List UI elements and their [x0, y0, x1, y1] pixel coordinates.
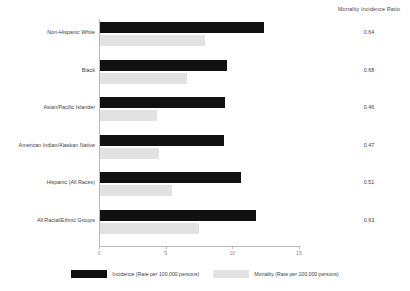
- bar-mortality: [100, 148, 159, 159]
- ratio-value: 0.47: [330, 142, 408, 148]
- bar-mortality: [100, 73, 187, 84]
- mortality-incidence-chart: Mortality Incidence Ratio 051015 Non-His…: [0, 0, 410, 291]
- ratio-value: 0.68: [330, 67, 408, 73]
- legend-swatch-mortality: [213, 270, 249, 278]
- ratio-value: 0.64: [330, 29, 408, 35]
- bar-mortality: [100, 110, 157, 121]
- bar-incidence: [100, 22, 264, 33]
- category-label: Black: [0, 67, 95, 73]
- category-label: Non-Hispanic White: [0, 29, 95, 35]
- ratio-column-header: Mortality Incidence Ratio: [330, 6, 408, 12]
- x-tick-label: 5: [156, 250, 176, 256]
- category-label: Hispanic (All Races): [0, 179, 95, 185]
- chart-legend: Incidence (Rate per 100,000 persons) Mor…: [0, 270, 410, 278]
- legend-label-mortality: Mortality (Rate per 100,000 persons): [254, 271, 338, 277]
- bar-incidence: [100, 97, 225, 108]
- x-tick-label: 0: [89, 250, 109, 256]
- ratio-value: 0.63: [330, 217, 408, 223]
- bar-incidence: [100, 60, 227, 71]
- x-tick: [299, 246, 300, 249]
- category-label: All Racial/Ethnic Groups: [0, 217, 95, 223]
- x-tick: [99, 246, 100, 249]
- legend-label-incidence: Incidence (Rate per 100,000 persons): [112, 271, 199, 277]
- ratio-value: 0.51: [330, 179, 408, 185]
- x-tick-label: 15: [289, 250, 309, 256]
- bar-mortality: [100, 35, 205, 46]
- x-tick: [232, 246, 233, 249]
- legend-item-incidence: Incidence (Rate per 100,000 persons): [71, 270, 199, 278]
- category-label: American Indian/Alaskan Native: [0, 142, 95, 148]
- bar-incidence: [100, 135, 224, 146]
- legend-item-mortality: Mortality (Rate per 100,000 persons): [213, 270, 338, 278]
- x-tick: [166, 246, 167, 249]
- bar-mortality: [100, 223, 199, 234]
- x-axis-line: [99, 246, 300, 247]
- x-tick-label: 10: [222, 250, 242, 256]
- bar-incidence: [100, 172, 241, 183]
- legend-swatch-incidence: [71, 270, 107, 278]
- bar-mortality: [100, 185, 172, 196]
- category-label: Asian/Pacific Islander: [0, 104, 95, 110]
- ratio-value: 0.46: [330, 104, 408, 110]
- bar-incidence: [100, 210, 256, 221]
- plot-area: 051015: [99, 19, 300, 246]
